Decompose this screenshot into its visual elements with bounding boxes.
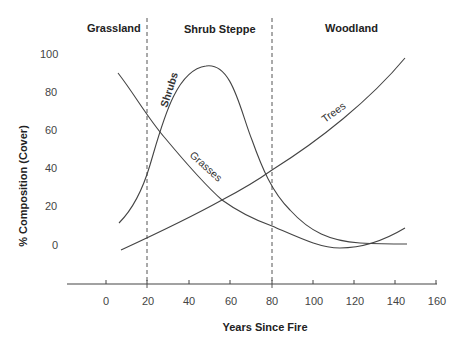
- region-label-woodland: Woodland: [325, 22, 378, 34]
- y-axis-title: % Composition (Cover): [17, 125, 29, 247]
- x-tick-60: 60: [225, 295, 237, 307]
- y-tick-40: 40: [45, 162, 57, 174]
- x-tick-0: 0: [103, 295, 109, 307]
- y-tick-100: 100: [40, 48, 58, 60]
- x-tick-120: 120: [346, 295, 364, 307]
- y-axis-ticks: 100 80 60 40 20 0: [40, 48, 58, 251]
- y-tick-80: 80: [45, 86, 57, 98]
- region-label-shrub-steppe: Shrub Steppe: [184, 23, 256, 35]
- region-label-grassland: Grassland: [87, 22, 141, 34]
- x-tick-100: 100: [305, 295, 323, 307]
- y-tick-0: 0: [52, 239, 58, 251]
- y-tick-60: 60: [45, 124, 57, 136]
- x-tick-20: 20: [142, 295, 154, 307]
- x-tick-40: 40: [183, 295, 195, 307]
- x-tick-140: 140: [387, 295, 405, 307]
- x-axis-ticks: 0 20 40 60 80 100 120 140 160: [103, 295, 446, 307]
- trees-label: Trees: [319, 99, 347, 124]
- x-tick-160: 160: [428, 295, 446, 307]
- y-tick-20: 20: [45, 200, 57, 212]
- succession-chart: Grassland Shrub Steppe Woodland 100 80 6…: [0, 0, 464, 346]
- grasses-label: Grasses: [188, 149, 225, 184]
- x-axis-title: Years Since Fire: [223, 321, 308, 333]
- x-tick-80: 80: [266, 295, 278, 307]
